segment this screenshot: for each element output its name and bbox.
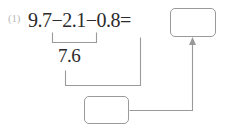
intermediate-answer-box[interactable]: [84, 96, 129, 124]
bracket-first-subtraction: [53, 33, 97, 43]
equation-expression: 9.7−2.1−0.8=: [28, 9, 131, 32]
arrow-up-icon: [189, 37, 196, 45]
final-answer-box[interactable]: [170, 8, 216, 37]
problem-number-label: (1): [8, 12, 20, 24]
math-worksheet-problem: (1) 9.7−2.1−0.8= 7.6: [0, 0, 225, 134]
connector-step-to-final: [130, 37, 197, 111]
partial-result-label: 7.6: [58, 45, 80, 67]
